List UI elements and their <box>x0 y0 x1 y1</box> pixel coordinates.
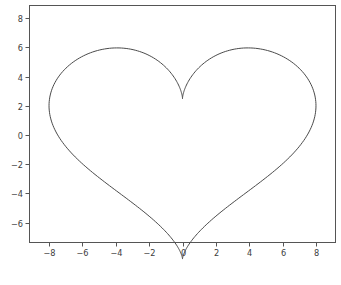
x-tick-label: −6 <box>76 248 88 258</box>
x-tick-label: 6 <box>281 248 286 258</box>
y-tick-label: 2 <box>18 102 23 112</box>
heart-curve-plot: −8−6−4−202468 −6−4−202468 <box>0 0 341 285</box>
x-tick-label: −2 <box>143 248 155 258</box>
axes-background <box>29 5 336 243</box>
matplotlib-figure: −8−6−4−202468 −6−4−202468 <box>0 0 341 285</box>
y-tick-label: 4 <box>18 73 23 83</box>
y-tick-label: −2 <box>11 160 23 170</box>
x-tick-label: 8 <box>314 248 319 258</box>
x-tick-label: −8 <box>43 248 55 258</box>
y-tick-label: −6 <box>11 219 23 229</box>
x-tick-label: −4 <box>110 248 122 258</box>
y-tick-label: −4 <box>11 189 23 199</box>
y-tick-label: 0 <box>18 131 23 141</box>
y-tick-label: 6 <box>18 43 23 53</box>
x-tick-label: 2 <box>214 248 219 258</box>
y-tick-label: 8 <box>18 14 23 24</box>
x-tick-label: 4 <box>247 248 252 258</box>
